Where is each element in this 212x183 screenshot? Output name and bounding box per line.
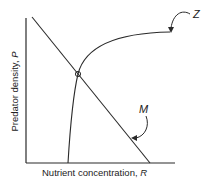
curve-m-label: M: [139, 103, 148, 115]
y-axis-label: Predator density, P: [9, 38, 20, 146]
curve-m-line: [32, 17, 150, 163]
x-axis-variable: R: [140, 167, 147, 178]
diagram-canvas: [0, 0, 212, 183]
curve-z-line: [68, 32, 170, 163]
z-pointer-arrow: [171, 12, 190, 28]
m-pointer-arrow: [136, 116, 147, 138]
x-axis-label: Nutrient concentration, R: [42, 167, 147, 178]
y-axis-variable: P: [9, 51, 20, 57]
y-axis-label-text: Predator density,: [9, 58, 20, 132]
x-axis-label-text: Nutrient concentration,: [42, 167, 140, 178]
curve-z-label: Z: [193, 8, 200, 20]
